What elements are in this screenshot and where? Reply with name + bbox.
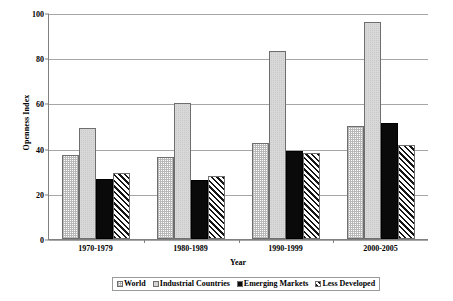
y-tick-label: 60	[36, 100, 44, 109]
plot-area: 020406080100	[48, 14, 428, 240]
bar[interactable]	[269, 51, 286, 239]
x-tick-label: 1980-1989	[143, 244, 238, 253]
bar[interactable]	[113, 173, 130, 239]
bar[interactable]	[347, 126, 364, 239]
x-tick-mark	[144, 239, 145, 243]
legend-item[interactable]: Less Developed	[315, 279, 375, 288]
x-tick-mark	[239, 239, 240, 243]
bar[interactable]	[252, 143, 269, 239]
bar[interactable]	[381, 123, 398, 239]
legend-item[interactable]: Industrial Countries	[153, 279, 230, 288]
y-tick-mark	[45, 240, 49, 241]
checker-light-swatch	[117, 281, 123, 287]
bar[interactable]	[191, 180, 208, 239]
bar-group	[333, 14, 428, 239]
bar[interactable]	[286, 151, 303, 239]
bar[interactable]	[364, 22, 381, 239]
bar[interactable]	[398, 145, 415, 239]
bar[interactable]	[208, 176, 225, 239]
legend-item-label: World	[124, 279, 146, 288]
legend-item-label: Less Developed	[322, 279, 375, 288]
legend-item[interactable]: Emerging Markets	[237, 279, 309, 288]
bar-chart: Openness Index 020406080100 1970-1979198…	[0, 0, 453, 301]
bar-group	[144, 14, 239, 239]
x-axis-title: Year	[48, 258, 428, 267]
diagonal-hatch-swatch	[315, 281, 321, 287]
x-tick-label: 1990-1999	[238, 244, 333, 253]
bar-group	[49, 14, 144, 239]
y-tick-label: 80	[36, 55, 44, 64]
legend-item[interactable]: World	[117, 279, 146, 288]
bar-group	[239, 14, 334, 239]
y-axis-title: Openness Index	[22, 43, 31, 203]
x-axis-tick-labels: 1970-19791980-19891990-19992000-2005	[48, 244, 428, 253]
x-tick-mark	[333, 239, 334, 243]
y-tick-label: 20	[36, 190, 44, 199]
y-tick-label: 100	[32, 10, 44, 19]
bar[interactable]	[157, 157, 174, 239]
legend: WorldIndustrial CountriesEmerging Market…	[112, 277, 380, 291]
legend-item-label: Emerging Markets	[244, 279, 309, 288]
checker-gray-swatch	[153, 281, 159, 287]
y-tick-label: 0	[40, 236, 44, 245]
bar[interactable]	[79, 128, 96, 239]
bar[interactable]	[174, 103, 191, 239]
solid-black-swatch	[237, 281, 243, 287]
bar[interactable]	[96, 179, 113, 239]
y-tick-label: 40	[36, 145, 44, 154]
x-tick-label: 2000-2005	[333, 244, 428, 253]
legend-item-label: Industrial Countries	[160, 279, 230, 288]
x-tick-label: 1970-1979	[48, 244, 143, 253]
bar[interactable]	[303, 153, 320, 239]
bar-groups	[49, 14, 428, 239]
bar[interactable]	[62, 155, 79, 239]
